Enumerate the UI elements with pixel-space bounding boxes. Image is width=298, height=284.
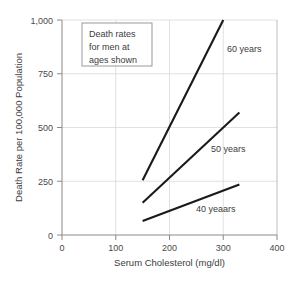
x-tick-label-100: 100 [108, 243, 123, 253]
y-axis-title: Death Rate per 100,000 Population [13, 53, 24, 202]
y-tick-marks [57, 20, 62, 235]
series-label-50-years: 50 years [211, 144, 246, 154]
annotation-box: Death rates for men at ages shown [82, 23, 152, 66]
y-tick-label-500: 500 [38, 123, 53, 133]
x-tick-label-200: 200 [162, 243, 177, 253]
x-axis-title: Serum Cholesterol (mg/dl) [114, 257, 225, 268]
annotation-line-3: ages shown [89, 55, 137, 65]
series-label-40-years: 40 yeaars [196, 204, 236, 214]
x-tick-label-300: 300 [216, 243, 231, 253]
annotation-line-2: for men at [89, 42, 130, 52]
x-tick-label-400: 400 [269, 243, 284, 253]
annotation-line-1: Death rates [89, 29, 136, 39]
death-rate-vs-cholesterol-chart: 1,000 750 500 250 0 0 100 200 300 400 Se… [0, 0, 298, 284]
x-tick-label-0: 0 [59, 243, 64, 253]
y-tick-label-1000: 1,000 [30, 16, 53, 26]
series-label-60-years: 60 years [227, 44, 262, 54]
y-tick-label-750: 750 [38, 69, 53, 79]
y-tick-label-0: 0 [48, 231, 53, 241]
y-tick-label-250: 250 [38, 177, 53, 187]
x-tick-marks [62, 235, 277, 240]
chart-figure: 1,000 750 500 250 0 0 100 200 300 400 Se… [0, 0, 298, 284]
